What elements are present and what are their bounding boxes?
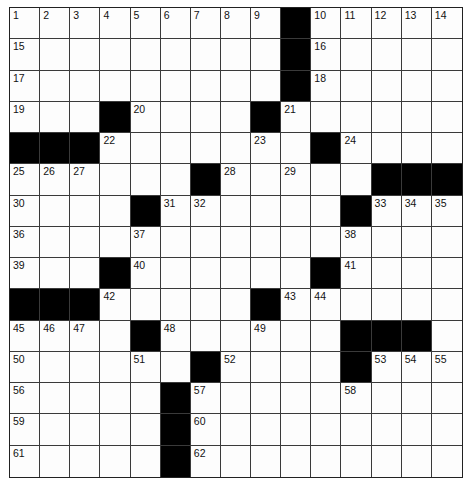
grid-cell[interactable]: 38: [341, 227, 371, 258]
grid-cell[interactable]: 60: [191, 414, 221, 445]
grid-cell[interactable]: [161, 352, 191, 383]
grid-cell[interactable]: 34: [402, 196, 432, 227]
grid-cell[interactable]: [432, 414, 462, 445]
grid-cell[interactable]: [70, 102, 100, 133]
grid-cell[interactable]: [402, 227, 432, 258]
grid-cell[interactable]: [402, 258, 432, 289]
grid-cell[interactable]: 59: [10, 414, 40, 445]
grid-cell[interactable]: 51: [131, 352, 161, 383]
grid-cell[interactable]: [70, 227, 100, 258]
grid-cell[interactable]: 49: [251, 321, 281, 352]
grid-cell[interactable]: 18: [311, 71, 341, 102]
grid-cell[interactable]: 42: [100, 289, 130, 320]
grid-cell[interactable]: [372, 133, 402, 164]
grid-cell[interactable]: 7: [191, 8, 221, 39]
grid-cell[interactable]: [221, 71, 251, 102]
grid-cell[interactable]: [281, 352, 311, 383]
grid-cell[interactable]: 62: [191, 446, 221, 477]
grid-cell[interactable]: [100, 352, 130, 383]
grid-cell[interactable]: [221, 383, 251, 414]
grid-cell[interactable]: 33: [372, 196, 402, 227]
grid-cell[interactable]: [70, 414, 100, 445]
grid-cell[interactable]: [221, 321, 251, 352]
grid-cell[interactable]: [40, 383, 70, 414]
grid-cell[interactable]: [161, 289, 191, 320]
grid-cell[interactable]: [221, 289, 251, 320]
grid-cell[interactable]: [372, 71, 402, 102]
grid-cell[interactable]: [70, 39, 100, 70]
grid-cell[interactable]: 20: [131, 102, 161, 133]
grid-cell[interactable]: [251, 352, 281, 383]
grid-cell[interactable]: [311, 102, 341, 133]
grid-cell[interactable]: [281, 414, 311, 445]
grid-cell[interactable]: 52: [221, 352, 251, 383]
grid-cell[interactable]: [191, 102, 221, 133]
grid-cell[interactable]: [341, 164, 371, 195]
grid-cell[interactable]: [432, 133, 462, 164]
grid-cell[interactable]: [100, 383, 130, 414]
grid-cell[interactable]: [341, 39, 371, 70]
grid-cell[interactable]: [40, 39, 70, 70]
grid-cell[interactable]: 47: [70, 321, 100, 352]
grid-cell[interactable]: [311, 196, 341, 227]
grid-cell[interactable]: 6: [161, 8, 191, 39]
grid-cell[interactable]: [40, 414, 70, 445]
grid-cell[interactable]: [100, 164, 130, 195]
grid-cell[interactable]: 8: [221, 8, 251, 39]
grid-cell[interactable]: 39: [10, 258, 40, 289]
grid-cell[interactable]: [161, 164, 191, 195]
grid-cell[interactable]: [161, 39, 191, 70]
grid-cell[interactable]: [251, 446, 281, 477]
grid-cell[interactable]: 25: [10, 164, 40, 195]
grid-cell[interactable]: [251, 227, 281, 258]
grid-cell[interactable]: [311, 227, 341, 258]
grid-cell[interactable]: 37: [131, 227, 161, 258]
grid-cell[interactable]: [341, 414, 371, 445]
grid-cell[interactable]: 32: [191, 196, 221, 227]
grid-cell[interactable]: [100, 414, 130, 445]
grid-cell[interactable]: [251, 414, 281, 445]
grid-cell[interactable]: 55: [432, 352, 462, 383]
grid-cell[interactable]: 27: [70, 164, 100, 195]
grid-cell[interactable]: 2: [40, 8, 70, 39]
grid-cell[interactable]: [161, 258, 191, 289]
grid-cell[interactable]: [221, 133, 251, 164]
grid-cell[interactable]: [191, 258, 221, 289]
grid-cell[interactable]: [341, 446, 371, 477]
grid-cell[interactable]: 9: [251, 8, 281, 39]
grid-cell[interactable]: 53: [372, 352, 402, 383]
grid-cell[interactable]: 36: [10, 227, 40, 258]
grid-cell[interactable]: [40, 352, 70, 383]
grid-cell[interactable]: [311, 352, 341, 383]
grid-cell[interactable]: [100, 196, 130, 227]
grid-cell[interactable]: 44: [311, 289, 341, 320]
grid-cell[interactable]: [432, 258, 462, 289]
grid-cell[interactable]: [402, 446, 432, 477]
grid-cell[interactable]: 12: [372, 8, 402, 39]
grid-cell[interactable]: [372, 227, 402, 258]
grid-cell[interactable]: [432, 446, 462, 477]
grid-cell[interactable]: 23: [251, 133, 281, 164]
grid-cell[interactable]: [311, 383, 341, 414]
grid-cell[interactable]: [221, 102, 251, 133]
grid-cell[interactable]: [191, 227, 221, 258]
grid-cell[interactable]: 15: [10, 39, 40, 70]
grid-cell[interactable]: [432, 102, 462, 133]
grid-cell[interactable]: 1: [10, 8, 40, 39]
grid-cell[interactable]: 26: [40, 164, 70, 195]
grid-cell[interactable]: 22: [100, 133, 130, 164]
grid-cell[interactable]: 40: [131, 258, 161, 289]
grid-cell[interactable]: [70, 71, 100, 102]
grid-cell[interactable]: 28: [221, 164, 251, 195]
grid-cell[interactable]: 4: [100, 8, 130, 39]
grid-cell[interactable]: [70, 383, 100, 414]
grid-cell[interactable]: 43: [281, 289, 311, 320]
grid-cell[interactable]: [402, 289, 432, 320]
grid-cell[interactable]: [372, 258, 402, 289]
grid-cell[interactable]: 11: [341, 8, 371, 39]
grid-cell[interactable]: 31: [161, 196, 191, 227]
grid-cell[interactable]: 24: [341, 133, 371, 164]
grid-cell[interactable]: [131, 414, 161, 445]
grid-cell[interactable]: [281, 383, 311, 414]
grid-cell[interactable]: [402, 383, 432, 414]
